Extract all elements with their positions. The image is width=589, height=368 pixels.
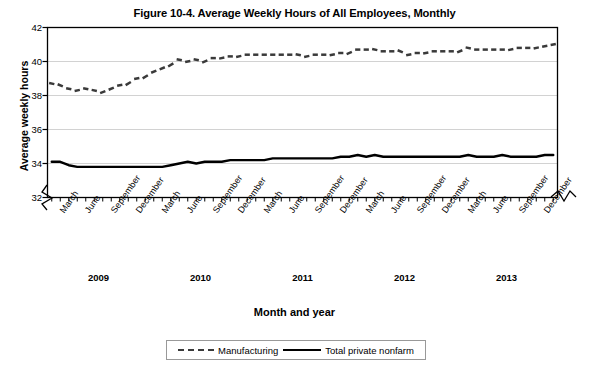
plot-frame (48, 28, 558, 198)
series-line-total-private-nonfarm (52, 155, 554, 167)
x-axis-year-label-2013: 2013 (487, 272, 527, 283)
legend-label-total-private-nonfarm: Total private nonfarm (325, 345, 414, 356)
gridlines (43, 28, 558, 198)
legend-swatch-solid-icon (283, 349, 321, 351)
x-axis-year-label-2010: 2010 (181, 272, 221, 283)
legend: Manufacturing Total private nonfarm (166, 340, 426, 360)
x-axis-year-label-2009: 2009 (79, 272, 119, 283)
series-line-manufacturing (49, 44, 556, 93)
legend-label-manufacturing: Manufacturing (218, 345, 278, 356)
x-axis-year-label-2011: 2011 (283, 272, 323, 283)
chart-figure: Figure 10-4. Average Weekly Hours of All… (0, 0, 589, 368)
legend-item-total-private-nonfarm[interactable]: Total private nonfarm (283, 345, 414, 356)
x-axis-title: Month and year (0, 306, 589, 318)
legend-item-manufacturing[interactable]: Manufacturing (178, 345, 278, 356)
legend-swatch-dashed-icon (178, 349, 214, 351)
x-axis-year-label-2012: 2012 (385, 272, 425, 283)
